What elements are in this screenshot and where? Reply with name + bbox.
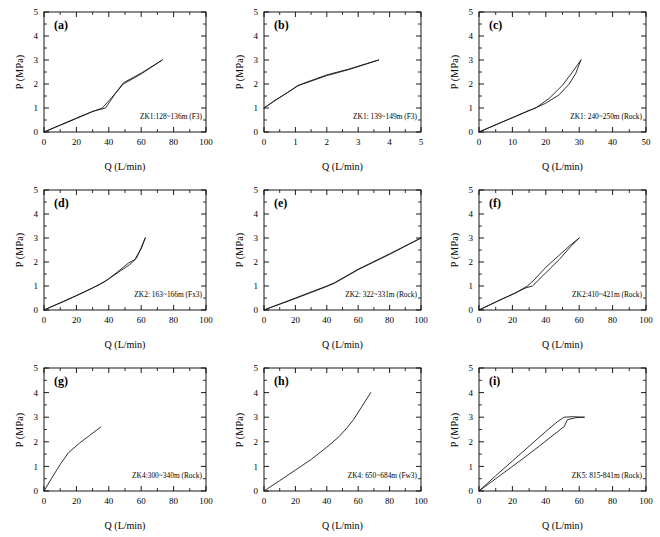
- svg-text:0: 0: [477, 315, 482, 325]
- svg-text:0: 0: [34, 127, 39, 137]
- borehole-label: ZK1: 240~250m (Rock): [570, 112, 642, 121]
- panel-letter: (a): [54, 18, 68, 33]
- svg-text:1: 1: [254, 462, 259, 472]
- panel-letter: (e): [274, 196, 287, 211]
- svg-text:5: 5: [34, 185, 39, 195]
- chart-panel-b: 012345012345(b)ZK1: 139~149m (F3)Q (L/mi…: [220, 0, 435, 178]
- series-unloading: [479, 238, 579, 310]
- svg-text:3: 3: [356, 137, 361, 147]
- chart-panel-g: 020406080100012345(g)ZK4:300~340m (Rock)…: [0, 356, 220, 537]
- svg-text:0: 0: [262, 496, 267, 506]
- y-axis-label: P (MPa): [234, 55, 245, 90]
- svg-text:2: 2: [469, 257, 474, 267]
- series-loading: [479, 60, 581, 132]
- svg-text:1: 1: [469, 103, 474, 113]
- plot-area-e: 020406080100012345: [220, 178, 435, 356]
- plot-area-d: 020406080100012345: [0, 178, 220, 356]
- panel-letter: (g): [54, 374, 68, 389]
- svg-text:100: 100: [414, 496, 428, 506]
- svg-text:2: 2: [325, 137, 330, 147]
- y-axis-label: P (MPa): [14, 55, 25, 90]
- svg-text:40: 40: [104, 137, 114, 147]
- svg-text:100: 100: [199, 315, 213, 325]
- svg-text:4: 4: [387, 137, 392, 147]
- svg-text:5: 5: [469, 363, 474, 373]
- plot-area-c: 01020304050012345: [435, 0, 660, 178]
- svg-text:60: 60: [137, 315, 147, 325]
- svg-text:1: 1: [254, 281, 259, 291]
- svg-text:40: 40: [104, 315, 114, 325]
- svg-text:0: 0: [469, 486, 474, 496]
- svg-text:2: 2: [469, 79, 474, 89]
- svg-text:100: 100: [639, 496, 653, 506]
- svg-text:3: 3: [469, 55, 474, 65]
- svg-text:0: 0: [262, 137, 267, 147]
- svg-text:40: 40: [608, 137, 618, 147]
- svg-text:20: 20: [508, 315, 518, 325]
- svg-text:0: 0: [34, 486, 39, 496]
- panel-letter: (c): [489, 18, 502, 33]
- borehole-label: ZK4: 650~684m (Fw3): [348, 471, 417, 480]
- svg-text:3: 3: [34, 55, 39, 65]
- svg-text:80: 80: [608, 315, 618, 325]
- svg-text:80: 80: [608, 496, 618, 506]
- svg-text:0: 0: [469, 127, 474, 137]
- x-axis-label: Q (L/min): [220, 339, 435, 350]
- x-axis-label: Q (L/min): [0, 520, 220, 531]
- x-axis-label: Q (L/min): [0, 161, 220, 172]
- svg-text:100: 100: [199, 496, 213, 506]
- svg-text:0: 0: [477, 137, 482, 147]
- svg-text:1: 1: [469, 462, 474, 472]
- chart-panel-f: 020406080100012345(f)ZK2:410~421m (Rock)…: [435, 178, 660, 356]
- svg-text:3: 3: [469, 412, 474, 422]
- y-axis-label: P (MPa): [449, 55, 460, 90]
- series-loading: [264, 60, 379, 108]
- svg-text:2: 2: [34, 79, 39, 89]
- series-unloading: [264, 238, 421, 310]
- svg-text:0: 0: [254, 486, 259, 496]
- svg-text:60: 60: [137, 137, 147, 147]
- svg-text:4: 4: [34, 31, 39, 41]
- svg-text:0: 0: [254, 305, 259, 315]
- svg-text:1: 1: [34, 462, 39, 472]
- series-loading: [479, 238, 579, 310]
- figure-pq-curves: 020406080100012345(a)ZK1:128~136m (F3)Q …: [0, 0, 660, 537]
- svg-text:30: 30: [575, 137, 585, 147]
- svg-text:0: 0: [42, 496, 47, 506]
- borehole-label: ZK2:410~421m (Rock): [572, 290, 642, 299]
- svg-text:60: 60: [137, 496, 147, 506]
- x-axis-label: Q (L/min): [435, 161, 660, 172]
- y-axis-label: P (MPa): [234, 412, 245, 447]
- y-axis-label: P (MPa): [449, 233, 460, 268]
- svg-text:10: 10: [508, 137, 518, 147]
- svg-text:40: 40: [322, 315, 332, 325]
- svg-text:40: 40: [104, 496, 114, 506]
- plot-area-i: 020406080100012345: [435, 356, 660, 537]
- svg-text:0: 0: [34, 305, 39, 315]
- svg-text:60: 60: [575, 315, 585, 325]
- svg-text:5: 5: [34, 363, 39, 373]
- y-axis-label: P (MPa): [14, 233, 25, 268]
- series-loading: [264, 238, 421, 310]
- svg-text:0: 0: [262, 315, 267, 325]
- svg-text:100: 100: [414, 315, 428, 325]
- borehole-label: ZK2: 163~166m (Fx3): [134, 290, 202, 299]
- chart-panel-a: 020406080100012345(a)ZK1:128~136m (F3)Q …: [0, 0, 220, 178]
- panel-letter: (d): [54, 196, 69, 211]
- plot-area-b: 012345012345: [220, 0, 435, 178]
- svg-text:4: 4: [469, 388, 474, 398]
- x-axis-label: Q (L/min): [220, 520, 435, 531]
- panel-letter: (b): [274, 18, 289, 33]
- series-loading: [44, 427, 101, 491]
- svg-text:60: 60: [354, 315, 364, 325]
- panel-letter: (i): [489, 374, 500, 389]
- svg-text:80: 80: [169, 496, 179, 506]
- svg-text:40: 40: [541, 496, 551, 506]
- series-unloading: [264, 60, 379, 108]
- svg-text:4: 4: [34, 388, 39, 398]
- svg-text:40: 40: [322, 496, 332, 506]
- x-axis-label: Q (L/min): [435, 520, 660, 531]
- svg-text:20: 20: [541, 137, 551, 147]
- svg-text:20: 20: [72, 496, 82, 506]
- svg-text:0: 0: [42, 137, 47, 147]
